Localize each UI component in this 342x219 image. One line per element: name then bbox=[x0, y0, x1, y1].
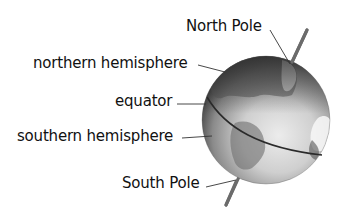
northern-hemisphere-leader bbox=[198, 65, 225, 72]
north-axis-tip bbox=[292, 30, 307, 62]
south-axis-tip bbox=[226, 182, 236, 205]
south-pole-leader bbox=[206, 180, 236, 187]
equator-label: equator bbox=[115, 94, 172, 109]
south-pole-label: South Pole bbox=[122, 176, 199, 191]
north-pole-label: North Pole bbox=[186, 19, 262, 34]
globe bbox=[200, 55, 332, 185]
globe-diagram: North Pole northern hemisphere equator s… bbox=[0, 0, 342, 219]
northern-hemisphere-label: northern hemisphere bbox=[33, 56, 188, 71]
southern-hemisphere-label: southern hemisphere bbox=[17, 129, 173, 144]
